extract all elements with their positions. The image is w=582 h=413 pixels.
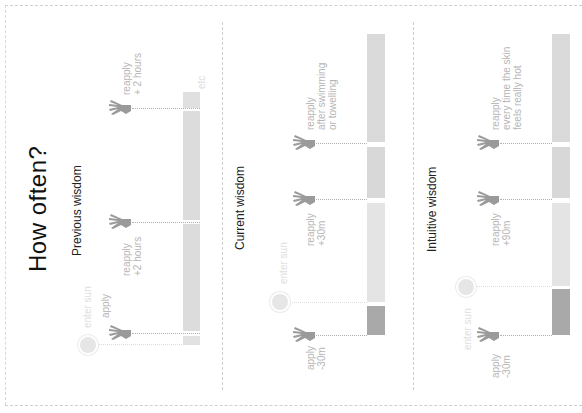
connector-line — [316, 335, 367, 336]
timeline-segment-etc — [183, 92, 200, 108]
section-title: Current wisdom — [233, 166, 247, 250]
label-apply: apply — [490, 354, 501, 378]
section-divider — [222, 22, 223, 390]
section-divider — [413, 22, 414, 390]
connector-line — [472, 286, 552, 287]
label-reapply: reapply — [121, 243, 132, 276]
label-reapply-condition: feels really hot — [512, 66, 523, 130]
connector-line — [132, 108, 200, 109]
frame-border-left — [5, 5, 6, 405]
sun-icon — [458, 279, 474, 295]
frame-border-bottom — [5, 405, 582, 406]
frame-border-top — [5, 5, 582, 6]
page-title: How often? — [24, 146, 52, 272]
timeline-segment — [183, 111, 200, 220]
label-reapply-condition: every time the skin — [501, 47, 512, 130]
label-enter-sun: enter sun — [278, 242, 289, 284]
timeline-segment — [367, 147, 385, 198]
timeline-segment — [552, 203, 570, 286]
timeline-segment-active — [552, 289, 570, 335]
connector-line — [500, 335, 552, 336]
timeline-segment — [367, 34, 385, 142]
label-apply-time: -30m — [316, 347, 327, 370]
timeline-segment — [183, 224, 200, 331]
label-enter-sun: enter sun — [462, 308, 473, 350]
timeline-segment-active — [367, 306, 385, 335]
label-apply: apply — [100, 294, 111, 318]
label-reapply-condition: after swimming — [316, 63, 327, 130]
label-reapply-condition: or towelling — [327, 79, 338, 130]
hand-icon — [292, 190, 316, 208]
hand-icon — [108, 99, 132, 117]
label-etc: etc — [196, 76, 207, 89]
label-enter-sun: enter sun — [82, 286, 93, 328]
hand-icon — [292, 326, 316, 344]
hand-icon — [476, 326, 500, 344]
section-title: Intuitive wisdom — [425, 167, 439, 252]
label-reapply: reapply — [490, 97, 501, 130]
timeline-segment — [552, 147, 570, 198]
connector-line — [286, 302, 367, 303]
connector-line — [132, 222, 200, 223]
label-apply-time: -30m — [501, 355, 512, 378]
label-reapply-time: +30m — [316, 221, 327, 246]
label-reapply: reapply — [305, 97, 316, 130]
connector-line — [500, 199, 552, 200]
label-reapply: reapply — [490, 213, 501, 246]
connector-line — [500, 143, 552, 144]
label-apply: apply — [305, 346, 316, 370]
connector-line — [316, 199, 367, 200]
hand-icon — [108, 324, 132, 342]
label-reapply: reapply — [305, 213, 316, 246]
hand-icon — [476, 190, 500, 208]
sun-icon — [80, 337, 96, 353]
label-reapply: reapply — [121, 62, 132, 95]
hand-icon — [108, 213, 132, 231]
sun-icon — [272, 294, 288, 310]
hand-icon — [292, 134, 316, 152]
section-title: Previous wisdom — [70, 165, 84, 256]
timeline-segment — [552, 34, 570, 142]
connector-line — [316, 143, 367, 144]
hand-icon — [476, 134, 500, 152]
connector-line — [132, 333, 200, 334]
timeline-segment — [367, 203, 385, 302]
label-reapply-time: + 2 hours — [132, 53, 143, 95]
connector-line — [96, 344, 200, 345]
label-reapply-time: +90m — [501, 221, 512, 246]
label-reapply-time: +2 hours — [132, 237, 143, 276]
